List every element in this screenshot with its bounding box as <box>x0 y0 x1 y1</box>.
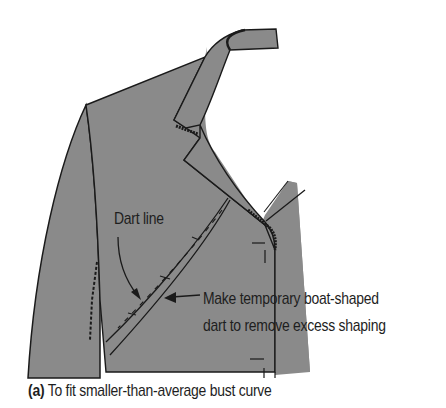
caption-text: To fit smaller-than-average bust curve <box>44 381 271 400</box>
dart-line-label: Dart line <box>114 209 164 229</box>
figure-caption: (a) To fit smaller-than-average bust cur… <box>28 381 272 401</box>
caption-prefix: (a) <box>28 381 44 400</box>
boat-dart-label: Make temporary boat-shaped dart to remov… <box>203 285 386 339</box>
boat-dart-label-line2: dart to remove excess shaping <box>203 312 386 339</box>
illustration-canvas: Dart line Make temporary boat-shaped dar… <box>0 0 446 408</box>
boat-dart-label-line1: Make temporary boat-shaped <box>203 285 386 312</box>
jacket-illustration <box>0 0 446 408</box>
